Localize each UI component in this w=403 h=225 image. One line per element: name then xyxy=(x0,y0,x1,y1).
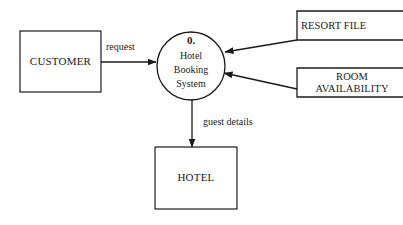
data-flow-guest-details[interactable]: guest details xyxy=(192,100,253,147)
process-name-line-2: Booking xyxy=(174,64,208,75)
process-number-label: 0. xyxy=(187,34,196,46)
data-flow-request[interactable]: request xyxy=(101,41,156,62)
diagram-canvas: CUSTOMER 0. Hotel Booking System HOTEL R… xyxy=(0,0,403,225)
data-store-room-availability[interactable]: ROOM AVAILABILITY xyxy=(297,68,403,97)
data-flow-availability-data[interactable] xyxy=(224,73,297,89)
data-flow-resort-data[interactable] xyxy=(225,40,297,52)
process-hotel-booking-system[interactable]: 0. Hotel Booking System xyxy=(157,32,225,100)
external-entity-hotel[interactable]: HOTEL xyxy=(155,147,237,209)
resort-file-arrow xyxy=(225,40,297,52)
hotel-label: HOTEL xyxy=(177,171,214,183)
resort-file-label: RESORT FILE xyxy=(301,20,366,31)
room-availability-arrow xyxy=(224,73,297,89)
request-flow-label: request xyxy=(106,41,135,52)
room-availability-label-line-1: ROOM xyxy=(336,71,368,82)
customer-label: CUSTOMER xyxy=(30,55,92,67)
room-availability-label-line-2: AVAILABILITY xyxy=(315,83,388,94)
process-name-line-3: System xyxy=(176,78,206,89)
process-name-line-1: Hotel xyxy=(180,50,202,61)
guest-details-flow-label: guest details xyxy=(203,116,253,127)
external-entity-customer[interactable]: CUSTOMER xyxy=(20,31,101,92)
dfd-diagram: CUSTOMER 0. Hotel Booking System HOTEL R… xyxy=(0,0,403,225)
data-store-resort-file[interactable]: RESORT FILE xyxy=(297,11,403,40)
